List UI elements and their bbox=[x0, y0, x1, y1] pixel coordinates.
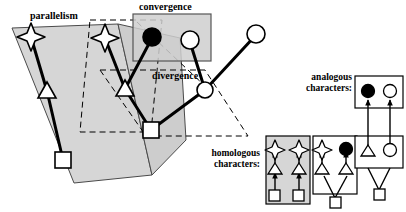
p2-filled-circle bbox=[340, 143, 353, 156]
homologous-panel-divergence bbox=[312, 136, 357, 208]
label-divergence: divergence bbox=[152, 70, 198, 81]
label-convergence: convergence bbox=[139, 1, 192, 12]
open-circle-convergence-node bbox=[181, 31, 199, 49]
p2-root-square bbox=[330, 197, 341, 208]
diagram-svg bbox=[0, 0, 406, 212]
label-homologous-characters: homologous characters: bbox=[198, 148, 260, 169]
an-filled-circle bbox=[362, 85, 375, 98]
label-analogous-line2: characters: bbox=[306, 83, 352, 93]
p1-square-b bbox=[293, 190, 304, 201]
root-square-left-node bbox=[55, 152, 71, 168]
homologous-panel-parallelism bbox=[265, 136, 310, 204]
label-analogous-characters: analogous characters: bbox=[296, 72, 352, 93]
divergence-node bbox=[197, 82, 213, 98]
filled-circle-convergence-node bbox=[143, 28, 161, 46]
an-open-circle-top bbox=[384, 85, 397, 98]
root-square-mid-node bbox=[143, 122, 159, 138]
label-parallelism: parallelism bbox=[30, 10, 78, 21]
an-root-right bbox=[379, 168, 390, 190]
an-root-square bbox=[374, 189, 385, 200]
an-open-circle-bottom bbox=[384, 144, 397, 157]
p1-square-a bbox=[269, 190, 280, 201]
label-homologous-line1: homologous bbox=[211, 148, 260, 158]
figure-canvas: parallelism convergence divergence analo… bbox=[0, 0, 406, 212]
edge-div-openR bbox=[205, 36, 255, 90]
an-root-left bbox=[368, 168, 379, 190]
open-circle-right-node bbox=[247, 25, 265, 43]
analogous-panel-convergence bbox=[355, 76, 403, 200]
label-homologous-line2: characters: bbox=[214, 159, 260, 169]
label-analogous-line1: analogous bbox=[311, 72, 352, 82]
